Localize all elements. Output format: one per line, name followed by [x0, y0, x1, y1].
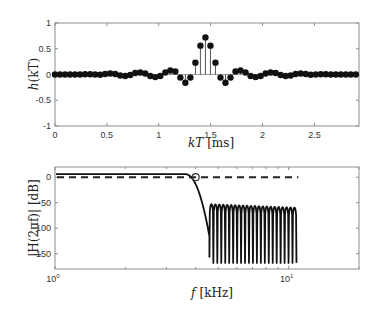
- bottom-x-axis-label: f[kHz]: [190, 286, 233, 300]
- magnitude-response-plot: 1001010-50-100-150 |H(2πf)| [dB] f[kHz]: [27, 167, 359, 300]
- impulse-response-plot: 00.511.522.510.50-0.5-1 h(kT) kT[ms]: [27, 18, 359, 150]
- top-x-axis-label: kT[ms]: [188, 136, 234, 150]
- x-tick-label: 101: [280, 273, 294, 284]
- x-tick-label: 0.5: [101, 130, 114, 140]
- stem-marker: [202, 34, 208, 40]
- x-tick-label: 1: [156, 130, 161, 140]
- stem-marker: [217, 74, 223, 80]
- x-tick-label: 2: [260, 130, 265, 140]
- stem-marker: [192, 59, 198, 65]
- y-tick-label: 1: [46, 18, 51, 28]
- y-tick-label: -0.5: [35, 95, 51, 105]
- y-tick-label: 0: [46, 172, 51, 182]
- stem-marker: [182, 80, 188, 86]
- x-tick-label: 0: [52, 130, 57, 140]
- top-y-axis-label: h(kT): [27, 58, 41, 90]
- stem-marker: [227, 74, 233, 80]
- stem-marker: [177, 74, 183, 80]
- figure: 00.511.522.510.50-0.5-1 h(kT) kT[ms] 100…: [0, 0, 380, 315]
- stem-marker: [353, 71, 359, 77]
- stem-marker: [222, 80, 228, 86]
- x-tick-label: 100: [46, 273, 60, 284]
- stem-marker: [187, 74, 193, 80]
- stem-marker: [172, 68, 178, 74]
- y-tick-label: 0: [46, 70, 51, 80]
- stem-marker: [212, 59, 218, 65]
- bottom-plot-frame: [55, 167, 359, 269]
- y-tick-label: 0.5: [38, 44, 51, 54]
- bottom-y-axis-label: |H(2πf)| [dB]: [27, 179, 41, 257]
- stem-marker: [197, 42, 203, 48]
- x-tick-label: 2.5: [308, 130, 321, 140]
- stem-marker: [207, 42, 213, 48]
- y-tick-label: -1: [43, 121, 51, 131]
